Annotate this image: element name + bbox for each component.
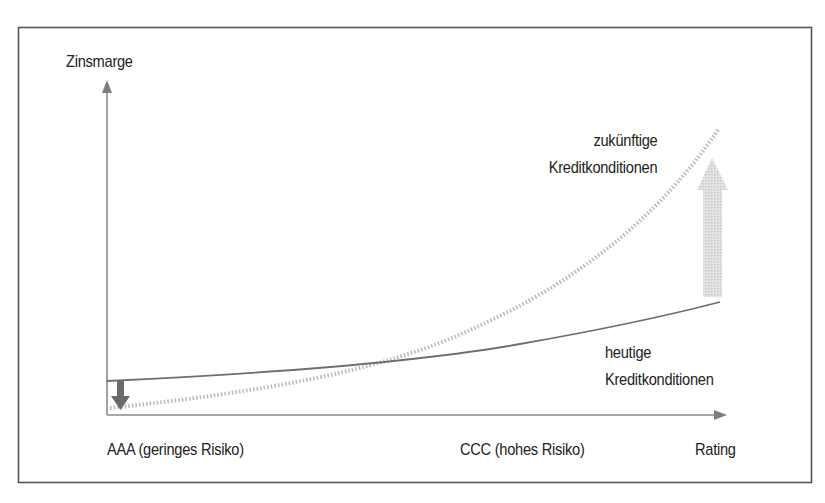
- y-axis-label: Zinsmarge: [66, 52, 133, 72]
- current-conditions-label-line1: heutige: [605, 343, 651, 363]
- x-axis-label: Rating: [695, 440, 736, 460]
- x-tick-low-rating: AAA (geringes Risiko): [107, 440, 244, 460]
- current-conditions-label-line2: Kreditkonditionen: [605, 370, 714, 390]
- x-axis-arrowhead-icon: [714, 410, 727, 420]
- y-axis-arrowhead-icon: [102, 80, 112, 93]
- x-tick-high-rating: CCC (hohes Risiko): [460, 440, 585, 460]
- future-conditions-label-line1: zukünftige: [593, 131, 657, 151]
- y-axis: [102, 80, 112, 415]
- future-conditions-label-line2: Kreditkonditionen: [548, 158, 657, 178]
- x-axis: [107, 410, 727, 420]
- diagram-figure: Zinsmarge zukünftige Kreditkonditionen h…: [0, 0, 825, 503]
- up-arrow-icon: [697, 158, 728, 297]
